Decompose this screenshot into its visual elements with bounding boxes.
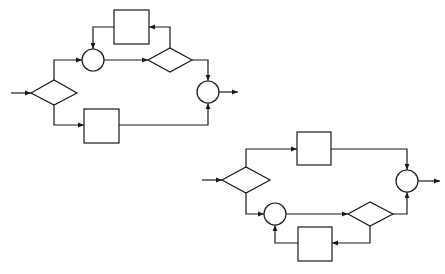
- top-edge-decision1-to-block2: [54, 105, 84, 125]
- bottom-decision-2-diamond: [348, 202, 393, 226]
- top-flow-diagram: [11, 10, 238, 143]
- top-decision-1-diamond: [31, 80, 77, 105]
- top-edge-decision1-to-junction1: [54, 60, 82, 80]
- bottom-edge-block3-to-junction4: [331, 149, 407, 170]
- bottom-decision-1-diamond: [222, 167, 270, 193]
- top-decision-2-diamond: [148, 48, 192, 72]
- top-edge-decision2-to-block1: [149, 27, 170, 48]
- bottom-edge-decision4-to-junction4: [393, 192, 407, 214]
- flow-diagram-canvas: [0, 0, 445, 274]
- bottom-summing-junction-2: [396, 170, 418, 192]
- top-edge-block1-to-junction1: [93, 27, 114, 49]
- bottom-edge-block4-to-junction3: [275, 225, 298, 243]
- bottom-summing-junction-1: [264, 203, 286, 225]
- top-summing-junction-1: [82, 49, 104, 71]
- bottom-parallel-block: [297, 132, 331, 165]
- top-edge-block2-to-junction2: [119, 103, 208, 125]
- top-edge-decision2-to-junction2: [192, 60, 208, 81]
- bottom-edge-decision4-to-block4: [332, 226, 370, 243]
- bottom-edge-decision3-to-block3: [246, 149, 297, 167]
- top-summing-junction-2: [197, 81, 219, 103]
- bottom-edge-decision3-to-junction3: [246, 193, 264, 214]
- top-feedback-block: [114, 10, 149, 44]
- top-parallel-block: [84, 109, 119, 143]
- bottom-flow-diagram: [202, 132, 440, 261]
- bottom-feedback-block: [298, 227, 332, 261]
